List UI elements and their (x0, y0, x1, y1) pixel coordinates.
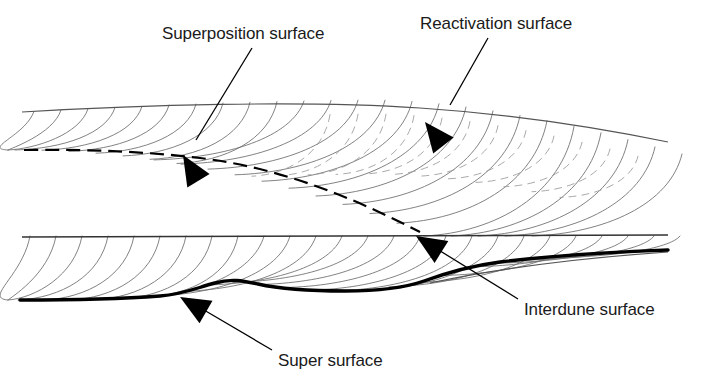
arrowhead-interdune (416, 236, 448, 263)
lamina-line (44, 236, 134, 300)
label-super-surface: Super surface (278, 352, 383, 369)
lamina-line (8, 236, 82, 300)
lamina-line (259, 236, 394, 285)
lamina-line (96, 236, 186, 300)
lamina-line (69, 105, 169, 151)
lamina-line (252, 115, 330, 177)
laminae-upper-set (0, 100, 682, 236)
lamina-line (8, 109, 88, 150)
lamina-line (70, 236, 160, 300)
lamina-line (504, 142, 582, 186)
arrowhead-super (180, 297, 213, 323)
leader-line-reactivation (450, 38, 488, 105)
lamina-line (337, 236, 472, 291)
arrowhead-reactivation (425, 122, 454, 154)
lamina-line (285, 236, 420, 288)
lamina-line (8, 110, 61, 150)
cross-section-diagram (0, 0, 701, 385)
leader-line-superposition (196, 48, 252, 140)
label-superposition-surface: Superposition surface (162, 25, 324, 42)
lamina-line (8, 236, 56, 300)
lamina-line (18, 236, 108, 300)
lamina-line (233, 236, 368, 282)
leader-line-super (204, 310, 272, 350)
lamina-line (343, 111, 493, 204)
lamina-line (451, 133, 601, 236)
lamina-line (0, 111, 34, 150)
lamina-line (370, 116, 520, 214)
lamina-line (505, 147, 655, 236)
lamina-line (532, 154, 682, 236)
lamina-line (478, 140, 628, 236)
lamina-line (15, 108, 115, 151)
label-reactivation-surface: Reactivation surface (420, 15, 572, 32)
lamina-line (532, 149, 610, 192)
lamina-line (308, 114, 386, 175)
lamina-line (42, 106, 142, 150)
label-interdune-surface: Interdune surface (524, 301, 655, 318)
figure-root: Superposition surface Reactivation surfa… (0, 0, 701, 385)
interdune-surface-line (22, 235, 668, 237)
lamina-line (235, 100, 385, 175)
lamina-line (150, 102, 250, 159)
lamina-line (177, 102, 277, 164)
annotation-leaders (196, 38, 518, 350)
reactivation-dashed-laminae (252, 114, 638, 197)
lamina-line (208, 100, 358, 169)
lamina-line (476, 136, 554, 182)
lamina-line (0, 236, 30, 300)
